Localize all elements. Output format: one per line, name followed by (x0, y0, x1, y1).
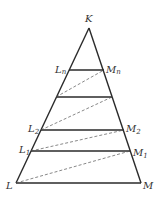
label-L1: L1 (18, 144, 30, 157)
diagonal-L-M1 (16, 151, 130, 183)
diagonal-L1-M2 (31, 130, 124, 151)
label-Ln: Ln (54, 64, 67, 76)
side-KL (16, 28, 89, 183)
side-KM (89, 28, 141, 183)
label-Mn: Mn (105, 64, 121, 76)
label-M2: M2 (125, 123, 141, 136)
label-M1: M1 (132, 147, 148, 160)
diagonal-L2-M3 (41, 97, 112, 130)
label-M: M (142, 180, 154, 191)
label-L2: L2 (27, 123, 40, 136)
label-K: K (84, 13, 93, 24)
label-L: L (5, 180, 13, 191)
triangle-diagram: K L M L1 M1 L2 M2 Ln Mn (0, 0, 164, 198)
